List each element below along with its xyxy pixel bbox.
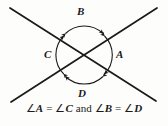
caption-angle-d: D [134, 102, 142, 114]
angle-symbol-2: ∠ [55, 102, 65, 114]
geometry-figure: B C A D ∠A=∠Cand∠B=∠D [0, 0, 168, 126]
arc-top [66, 26, 104, 34]
angle-label-b: B [77, 6, 84, 17]
arc-bottom [66, 77, 104, 85]
caption-conjunction: and [76, 102, 92, 114]
angle-symbol-3: ∠ [95, 102, 105, 114]
angle-symbol-1: ∠ [26, 102, 36, 114]
caption-angle-b: B [105, 102, 112, 114]
angle-label-a: A [116, 49, 123, 60]
caption-angle-a: A [36, 102, 43, 114]
angle-label-d: D [78, 88, 86, 99]
caption-angle-c: C [65, 102, 72, 114]
equals-symbol-2: = [115, 102, 121, 114]
angle-symbol-4: ∠ [124, 102, 134, 114]
figure-caption: ∠A=∠Cand∠B=∠D [0, 103, 168, 114]
angle-label-c: C [44, 49, 51, 60]
equals-symbol-1: = [46, 102, 52, 114]
